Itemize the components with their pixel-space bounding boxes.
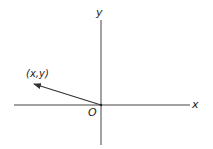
y-axis-label: y bbox=[96, 7, 103, 18]
point-label: (x,y) bbox=[26, 69, 49, 79]
position-vector-arrow bbox=[34, 84, 101, 105]
x-axis-label: x bbox=[192, 99, 199, 110]
origin-label: O bbox=[88, 107, 97, 118]
origin-point bbox=[100, 104, 102, 106]
